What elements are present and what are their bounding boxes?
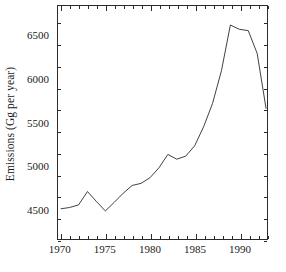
x-axis-minor-tick xyxy=(223,236,224,239)
x-axis-minor-tick-top xyxy=(178,6,179,9)
x-axis-minor-tick xyxy=(124,236,125,239)
x-axis-tick-label: 1970 xyxy=(49,243,71,255)
y-axis-minor-tick-right xyxy=(264,132,267,133)
x-axis-minor-tick-top xyxy=(88,6,89,9)
y-axis-tick-label: 4500 xyxy=(27,204,49,215)
x-axis-major-tick xyxy=(151,234,152,239)
x-axis-minor-tick xyxy=(70,236,71,239)
plot-area xyxy=(57,5,268,240)
x-axis-minor-tick xyxy=(97,236,98,239)
y-axis-tick-label: 6500 xyxy=(27,30,49,41)
x-axis-minor-tick-top xyxy=(187,6,188,9)
y-axis-minor-tick-right xyxy=(264,110,267,111)
data-line-series xyxy=(58,6,267,239)
x-axis-minor-tick xyxy=(259,236,260,239)
y-axis-tick-label: 6000 xyxy=(27,73,49,84)
x-axis-minor-tick-top xyxy=(259,6,260,9)
emissions-line-chart: Emissions (Gg per year) 4500500055006000… xyxy=(0,0,286,272)
x-axis-minor-tick xyxy=(232,236,233,239)
x-axis-minor-tick-top xyxy=(160,6,161,9)
x-axis-minor-tick-top xyxy=(70,6,71,9)
x-axis-minor-tick xyxy=(169,236,170,239)
x-axis-minor-tick xyxy=(160,236,161,239)
y-axis-minor-tick-right xyxy=(264,241,267,242)
y-axis-tick-labels: 45005000550060006500 xyxy=(0,5,53,240)
x-axis-minor-tick-top xyxy=(268,6,269,9)
y-axis-minor-tick-right xyxy=(264,23,267,24)
y-axis-minor-tick xyxy=(58,45,61,46)
x-axis-minor-tick xyxy=(268,236,269,239)
y-axis-minor-tick-right xyxy=(264,197,267,198)
x-axis-minor-tick-top xyxy=(79,6,80,9)
y-axis-minor-tick-right xyxy=(264,219,267,220)
x-axis-minor-tick-top xyxy=(115,6,116,9)
x-axis-minor-tick-top xyxy=(97,6,98,9)
x-axis-tick-label: 1985 xyxy=(184,243,206,255)
x-axis-tick-label: 1990 xyxy=(229,243,251,255)
x-axis-minor-tick xyxy=(88,236,89,239)
x-axis-minor-tick-top xyxy=(214,6,215,9)
y-axis-minor-tick xyxy=(58,197,61,198)
x-axis-major-tick-top xyxy=(241,6,242,11)
y-axis-minor-tick-right xyxy=(264,45,267,46)
x-axis-tick-labels: 19701975198019851990 xyxy=(57,243,268,259)
y-axis-minor-tick-right xyxy=(264,67,267,68)
x-axis-minor-tick-top xyxy=(142,6,143,9)
x-axis-minor-tick-top xyxy=(133,6,134,9)
x-axis-minor-tick-top xyxy=(205,6,206,9)
y-axis-minor-tick xyxy=(58,110,61,111)
x-axis-minor-tick-top xyxy=(232,6,233,9)
x-axis-minor-tick xyxy=(187,236,188,239)
x-axis-minor-tick-top xyxy=(124,6,125,9)
y-axis-minor-tick xyxy=(58,176,61,177)
y-axis-minor-tick xyxy=(58,132,61,133)
y-axis-minor-tick-right xyxy=(264,154,267,155)
y-axis-minor-tick xyxy=(58,241,61,242)
x-axis-major-tick xyxy=(241,234,242,239)
y-axis-minor-tick xyxy=(58,219,61,220)
y-axis-minor-tick xyxy=(58,23,61,24)
x-axis-major-tick-top xyxy=(151,6,152,11)
x-axis-minor-tick xyxy=(79,236,80,239)
x-axis-minor-tick xyxy=(205,236,206,239)
x-axis-minor-tick xyxy=(115,236,116,239)
x-axis-minor-tick xyxy=(142,236,143,239)
y-axis-minor-tick xyxy=(58,154,61,155)
x-axis-major-tick xyxy=(61,234,62,239)
x-axis-minor-tick xyxy=(214,236,215,239)
x-axis-tick-label: 1975 xyxy=(94,243,116,255)
x-axis-major-tick-top xyxy=(106,6,107,11)
y-axis-minor-tick xyxy=(58,67,61,68)
y-axis-tick-label: 5000 xyxy=(27,161,49,172)
x-axis-major-tick-top xyxy=(61,6,62,11)
x-axis-minor-tick-top xyxy=(250,6,251,9)
y-axis-tick-label: 5500 xyxy=(27,117,49,128)
x-axis-minor-tick xyxy=(178,236,179,239)
y-axis-minor-tick-right xyxy=(264,89,267,90)
y-axis-minor-tick-right xyxy=(264,176,267,177)
x-axis-minor-tick-top xyxy=(223,6,224,9)
y-axis-minor-tick xyxy=(58,89,61,90)
x-axis-minor-tick xyxy=(250,236,251,239)
x-axis-minor-tick-top xyxy=(169,6,170,9)
x-axis-minor-tick xyxy=(133,236,134,239)
x-axis-major-tick xyxy=(106,234,107,239)
x-axis-major-tick-top xyxy=(196,6,197,11)
x-axis-major-tick xyxy=(196,234,197,239)
x-axis-tick-label: 1980 xyxy=(139,243,161,255)
